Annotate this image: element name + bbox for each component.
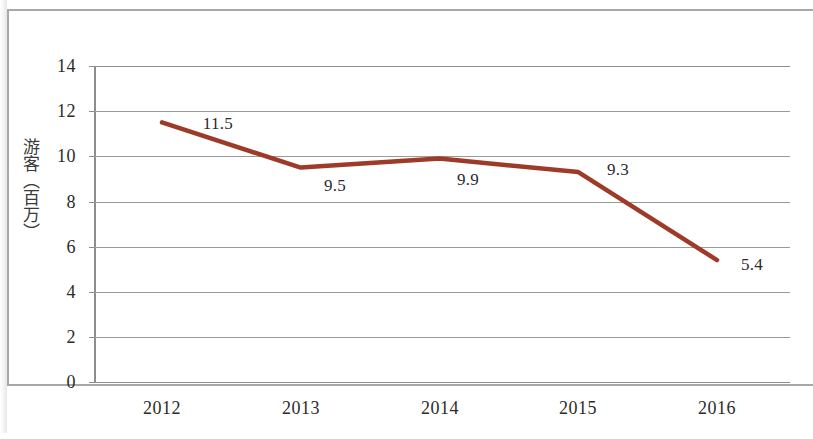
data-label-2012: 11.5: [203, 114, 233, 134]
gridline-2: [94, 337, 790, 338]
gridline-8: [94, 202, 790, 203]
y-tick-label: 10: [57, 146, 76, 167]
data-label-2015: 9.3: [607, 160, 629, 180]
x-tick-label-2015: 2015: [559, 398, 597, 419]
y-tick-label: 8: [67, 192, 77, 213]
gridline-4: [94, 292, 790, 293]
y-tick-label: 2: [67, 327, 77, 348]
data-label-2014: 9.9: [457, 170, 479, 190]
x-tick-label-2014: 2014: [421, 398, 459, 419]
y-tick-label: 6: [67, 237, 77, 258]
x-tick-label-2012: 2012: [143, 398, 181, 419]
y-tick-label: 4: [67, 282, 77, 303]
gridline-10: [94, 156, 790, 157]
data-label-2013: 9.5: [324, 176, 346, 196]
gridline-12: [94, 111, 790, 112]
data-label-2016: 5.4: [741, 255, 763, 275]
x-tick-label-2016: 2016: [698, 398, 736, 419]
gridline-0: [94, 382, 790, 383]
scan-bottom-edge: [0, 433, 808, 439]
y-tick-label: 0: [67, 372, 77, 393]
y-tick-label: 14: [57, 56, 76, 77]
x-axis-tick-labels: 2012 2013 2014 2015 2016: [0, 398, 808, 428]
y-tick-label: 12: [57, 101, 76, 122]
plot-area: [94, 66, 790, 382]
x-tick-label-2013: 2013: [282, 398, 320, 419]
gridline-6: [94, 247, 790, 248]
gridline-14: [94, 66, 790, 67]
y-axis-tick-labels: 14 12 10 8 6 4 2 0: [0, 0, 86, 439]
